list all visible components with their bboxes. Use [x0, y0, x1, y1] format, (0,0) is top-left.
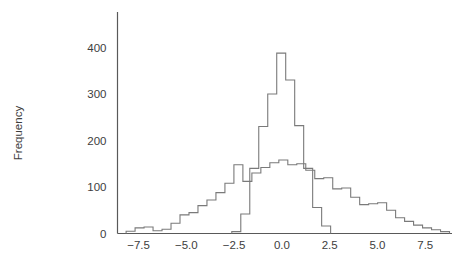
- x-tick-label: 7.5: [417, 239, 433, 251]
- x-tick-label: −2.5: [223, 239, 246, 251]
- histogram-series-group: [126, 53, 449, 233]
- x-axis-tick-labels: −7.5−5.0−2.50.02.55.07.5: [127, 239, 433, 251]
- axes-group: [118, 12, 453, 234]
- x-tick-label: 0.0: [274, 239, 290, 251]
- x-tick-label: 2.5: [322, 239, 338, 251]
- x-tick-label: 5.0: [369, 239, 385, 251]
- histogram-outline-broad-distribution: [126, 160, 449, 233]
- chart-canvas: 0100200300400 −7.5−5.0−2.50.02.55.07.5 F…: [0, 0, 464, 266]
- y-tick-label: 0: [100, 228, 106, 240]
- y-tick-label: 200: [87, 135, 106, 147]
- y-axis-tick-labels: 0100200300400: [87, 42, 106, 240]
- y-tick-label: 100: [87, 181, 106, 193]
- y-axis-title: Frequency: [12, 106, 24, 161]
- histogram-chart: 0100200300400 −7.5−5.0−2.50.02.55.07.5 F…: [0, 0, 464, 266]
- x-tick-label: −7.5: [127, 239, 150, 251]
- histogram-outline-narrow-distribution: [232, 53, 331, 233]
- x-tick-label: −5.0: [175, 239, 198, 251]
- y-tick-label: 400: [87, 42, 106, 54]
- y-tick-label: 300: [87, 88, 106, 100]
